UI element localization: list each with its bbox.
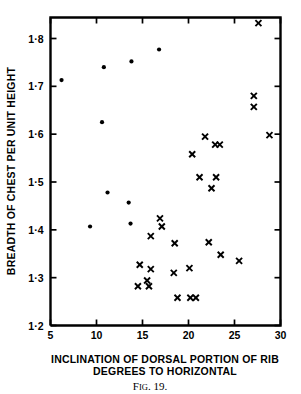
data-point-dot-2 <box>129 59 133 63</box>
data-point-cross-22 <box>144 278 150 284</box>
data-point-cross-27 <box>193 295 199 301</box>
data-point-cross-17 <box>236 258 242 264</box>
data-point-cross-24 <box>146 283 152 289</box>
data-point-cross-23 <box>135 283 141 289</box>
y-tick-label-1-6: 1·6 <box>28 128 43 140</box>
data-point-cross-15 <box>206 239 212 245</box>
data-markers <box>59 20 272 301</box>
data-point-cross-25 <box>174 295 180 301</box>
figure-container: 51015202530 1·21·31·41·51·61·71·8 BREADT… <box>0 0 301 394</box>
x-axis-label-line1: INCLINATION OF DORSAL PORTION OF RIB <box>51 353 279 365</box>
x-axis-tick-labels: 51015202530 <box>48 329 287 341</box>
plot-frame <box>51 18 281 326</box>
x-tick-label-20: 20 <box>183 329 195 341</box>
data-point-dot-6 <box>127 200 131 204</box>
data-point-cross-19 <box>148 266 154 272</box>
y-tick-label-1-7: 1·7 <box>28 80 43 92</box>
data-point-cross-18 <box>137 262 143 268</box>
data-point-cross-12 <box>159 223 165 229</box>
data-point-cross-14 <box>172 240 178 246</box>
data-point-cross-6 <box>189 151 195 157</box>
figure-caption: FIG. 19. <box>133 380 168 392</box>
y-axis-ticks <box>51 39 281 326</box>
x-tick-label-25: 25 <box>229 329 241 341</box>
data-point-cross-13 <box>148 233 154 239</box>
data-point-cross-2 <box>251 104 257 110</box>
scatter-plot: 51015202530 1·21·31·41·51·61·71·8 BREADT… <box>0 0 301 394</box>
x-tick-label-30: 30 <box>275 329 287 341</box>
data-point-dot-4 <box>100 120 104 124</box>
data-point-cross-1 <box>251 93 257 99</box>
data-point-cross-11 <box>157 215 163 221</box>
plot-border <box>51 18 281 326</box>
x-tick-label-5: 5 <box>48 329 54 341</box>
x-axis-label-line2: DEGREES TO HORIZONTAL <box>93 365 237 377</box>
data-point-cross-9 <box>213 174 219 180</box>
data-point-cross-20 <box>171 270 177 276</box>
x-tick-label-10: 10 <box>91 329 103 341</box>
data-point-dot-1 <box>102 65 106 69</box>
y-tick-label-1-5: 1·5 <box>28 176 43 188</box>
data-point-dot-3 <box>157 47 161 51</box>
x-tick-label-15: 15 <box>137 329 149 341</box>
y-tick-label-1-3: 1·3 <box>28 272 43 284</box>
y-tick-label-1-8: 1·8 <box>28 33 43 45</box>
y-axis-tick-labels: 1·21·31·41·51·61·71·8 <box>28 33 43 332</box>
data-point-cross-21 <box>186 265 192 271</box>
data-point-dot-8 <box>88 224 92 228</box>
data-point-dot-5 <box>105 190 109 194</box>
data-point-cross-10 <box>209 185 215 191</box>
data-point-cross-8 <box>197 174 203 180</box>
x-axis-ticks <box>51 18 281 326</box>
data-point-cross-3 <box>202 134 208 140</box>
data-point-cross-5 <box>217 142 223 148</box>
y-axis-label: BREADTH OF CHEST PER UNIT HEIGHT <box>5 67 17 276</box>
y-tick-label-1-4: 1·4 <box>28 224 43 236</box>
data-point-dot-7 <box>128 222 132 226</box>
data-point-dot-0 <box>59 78 63 82</box>
data-point-cross-16 <box>218 252 224 258</box>
y-tick-label-1-2: 1·2 <box>28 320 43 332</box>
data-point-cross-0 <box>255 20 261 26</box>
data-point-cross-7 <box>266 132 272 138</box>
